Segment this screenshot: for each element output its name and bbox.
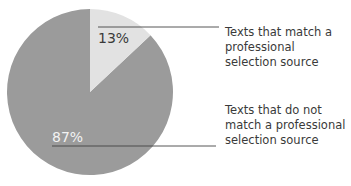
legend-label-match: Texts that match a professional selectio… (225, 25, 350, 70)
slice-label-match: 13% (98, 30, 129, 46)
slice-label-no-match: 87% (52, 129, 83, 145)
legend-label-no-match: Texts that do not match a professional s… (225, 103, 350, 148)
